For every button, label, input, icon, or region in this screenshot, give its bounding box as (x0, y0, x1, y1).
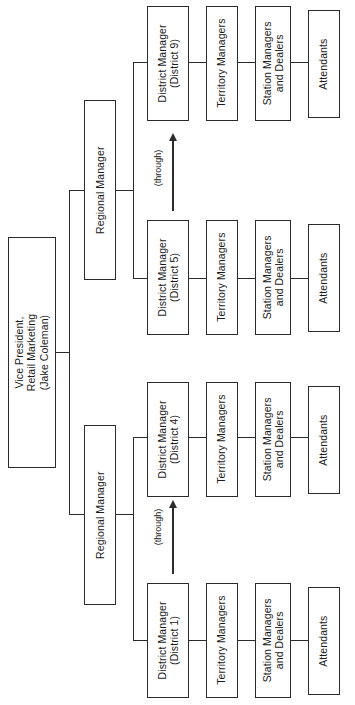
node-territory-managers-4-label: Territory Managers (216, 395, 228, 484)
connector-rm-bottom-vertical (133, 437, 134, 641)
node-attendants-9[interactable]: Attendants (308, 10, 340, 118)
node-attendants-5[interactable]: Attendants (308, 224, 340, 332)
annotation-through-bottom: (through) (153, 499, 163, 555)
node-attendants-4-label: Attendants (318, 414, 330, 465)
node-station-managers-5[interactable]: Station Managers and Dealers (255, 220, 291, 335)
node-district-manager-5-label: District Manager (District 5) (156, 238, 181, 316)
org-chart: Vice President, Retail Marketing (Jake C… (0, 0, 355, 705)
node-attendants-9-label: Attendants (318, 38, 330, 89)
node-territory-managers-5-label: Territory Managers (216, 233, 228, 322)
node-district-manager-4[interactable]: District Manager (District 4) (147, 382, 189, 497)
connector-dm5-to-tm5 (189, 278, 207, 279)
connector-root-vertical (69, 190, 70, 515)
connector-rm-bottom-to-dm1 (133, 640, 147, 641)
connector-root-to-rm-top (69, 190, 85, 191)
node-regional-manager-top-label: Regional Manager (94, 146, 106, 233)
connector-sm5-to-at5 (291, 278, 309, 279)
node-attendants-4[interactable]: Attendants (308, 386, 340, 494)
node-territory-managers-1[interactable]: Territory Managers (206, 583, 238, 698)
connector-tm4-to-sm4 (238, 437, 256, 438)
connector-sm9-to-at9 (291, 62, 309, 63)
node-territory-managers-5[interactable]: Territory Managers (206, 220, 238, 335)
connector-sm4-to-at4 (291, 437, 309, 438)
node-station-managers-4[interactable]: Station Managers and Dealers (255, 382, 291, 497)
through-arrow-bottom-icon (167, 500, 179, 574)
node-vice-president-label: Vice President, Retail Marketing (Jake C… (13, 314, 50, 391)
node-attendants-5-label: Attendants (318, 252, 330, 303)
connector-rm-top-to-dm5 (133, 278, 147, 279)
through-arrow-top-icon (167, 133, 179, 211)
connector-rm-top-to-dm9 (133, 62, 147, 63)
annotation-through-top: (through) (153, 140, 163, 196)
connector-rm-bottom-to-dm4 (133, 437, 147, 438)
node-regional-manager-bottom[interactable]: Regional Manager (84, 425, 116, 605)
node-district-manager-9[interactable]: District Manager (District 9) (147, 6, 189, 121)
connector-tm1-to-sm1 (238, 640, 256, 641)
node-territory-managers-9-label: Territory Managers (216, 19, 228, 108)
connector-dm9-to-tm9 (189, 62, 207, 63)
connector-root-to-rm-bottom (69, 514, 85, 515)
node-attendants-1[interactable]: Attendants (308, 587, 340, 695)
connector-dm4-to-tm4 (189, 437, 207, 438)
node-district-manager-4-label: District Manager (District 4) (156, 400, 181, 478)
connector-rm-top-stub (116, 190, 134, 191)
node-district-manager-1[interactable]: District Manager (District 1) (147, 583, 189, 698)
node-regional-manager-top[interactable]: Regional Manager (84, 100, 116, 280)
node-station-managers-1-label: Station Managers and Dealers (261, 599, 286, 683)
node-district-manager-9-label: District Manager (District 9) (156, 24, 181, 102)
node-district-manager-1-label: District Manager (District 1) (156, 601, 181, 679)
connector-sm1-to-at1 (291, 640, 309, 641)
node-station-managers-4-label: Station Managers and Dealers (261, 398, 286, 482)
node-station-managers-5-label: Station Managers and Dealers (261, 236, 286, 320)
node-station-managers-9-label: Station Managers and Dealers (261, 22, 286, 106)
connector-rm-bottom-stub (116, 514, 134, 515)
connector-tm5-to-sm5 (238, 278, 256, 279)
node-district-manager-5[interactable]: District Manager (District 5) (147, 220, 189, 335)
node-vice-president[interactable]: Vice President, Retail Marketing (Jake C… (8, 237, 56, 468)
node-station-managers-1[interactable]: Station Managers and Dealers (255, 583, 291, 698)
connector-rm-top-vertical (133, 62, 134, 279)
connector-tm9-to-sm9 (238, 62, 256, 63)
connector-dm1-to-tm1 (189, 640, 207, 641)
node-territory-managers-9[interactable]: Territory Managers (206, 6, 238, 121)
node-attendants-1-label: Attendants (318, 615, 330, 666)
node-territory-managers-4[interactable]: Territory Managers (206, 382, 238, 497)
node-regional-manager-bottom-label: Regional Manager (94, 471, 106, 558)
node-territory-managers-1-label: Territory Managers (216, 596, 228, 685)
node-station-managers-9[interactable]: Station Managers and Dealers (255, 6, 291, 121)
connector-root-stub (56, 352, 70, 353)
